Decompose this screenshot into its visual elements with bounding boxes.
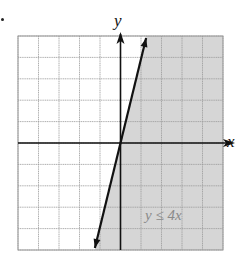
inequality-label: y ≤ 4x	[145, 208, 182, 223]
inequality-graph	[0, 0, 239, 254]
x-axis-label: x	[227, 133, 235, 150]
y-axis-label: y	[114, 12, 122, 29]
